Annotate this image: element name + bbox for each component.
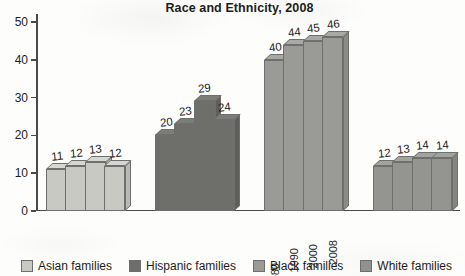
bar-face <box>264 60 285 211</box>
y-axis-tick-label: 20 <box>15 128 28 142</box>
legend-item[interactable]: Hispanic families <box>129 259 236 273</box>
y-axis-tick <box>31 135 36 137</box>
bar-face <box>373 166 394 211</box>
bar-group: 121980131990142000142008 <box>373 14 458 211</box>
legend-swatch <box>360 260 372 272</box>
bar-face <box>104 166 125 211</box>
bar-value-label: 13 <box>89 142 103 155</box>
chart-legend: Asian familiesHispanic familiesBlack fam… <box>0 259 465 273</box>
bar-face <box>65 166 86 211</box>
bar[interactable]: 111980 <box>46 169 67 211</box>
bar[interactable]: 401980 <box>264 60 285 211</box>
bar-value-label: 44 <box>287 25 301 38</box>
plot-area: 01020304050 1119801219901320001220082019… <box>36 14 460 211</box>
y-axis-tick-label: 50 <box>15 15 28 29</box>
bar[interactable]: 292000 <box>194 101 215 211</box>
legend-item[interactable]: White families <box>360 259 452 273</box>
legend-label: Black families <box>270 259 343 273</box>
bar-value-label: 46 <box>326 18 340 31</box>
chart-title: Race and Ethnicity, 2008 <box>0 1 465 15</box>
bar-side-face <box>234 115 240 211</box>
bar[interactable]: 231990 <box>174 124 195 211</box>
legend-swatch <box>253 260 265 272</box>
bar[interactable]: 242008 <box>213 120 234 211</box>
bar[interactable]: 142008 <box>431 158 452 211</box>
bar-face <box>412 158 433 211</box>
bar-side-face <box>343 32 349 211</box>
y-axis-tick <box>31 172 36 174</box>
bar-group: 201980231990292000242008 <box>155 14 240 211</box>
legend-swatch <box>129 260 141 272</box>
bar-face <box>213 120 234 211</box>
legend-swatch <box>21 260 33 272</box>
y-axis-tick-label: 10 <box>15 166 28 180</box>
legend-label: Asian families <box>38 259 112 273</box>
bar-face <box>85 162 106 211</box>
legend-item[interactable]: Black families <box>253 259 343 273</box>
legend-label: Hispanic families <box>146 259 236 273</box>
bar-value-label: 13 <box>396 142 410 155</box>
bar-value-label: 14 <box>416 138 430 151</box>
bar[interactable]: 452000 <box>303 41 324 211</box>
bar-value-label: 40 <box>268 40 282 53</box>
bar[interactable]: 121980 <box>373 166 394 211</box>
y-axis-tick-label: 0 <box>21 204 28 218</box>
bar[interactable]: 122008 <box>104 166 125 211</box>
bar-value-label: 11 <box>50 150 63 163</box>
bar-value-label: 45 <box>307 21 321 34</box>
bar-face <box>322 37 343 211</box>
bar-face <box>194 101 215 211</box>
bar[interactable]: 201980 <box>155 135 176 211</box>
bar-face <box>155 135 176 211</box>
bar[interactable]: 132000 <box>85 162 106 211</box>
bar-value-label: 24 <box>217 101 231 114</box>
y-axis-tick <box>31 97 36 99</box>
bar-face <box>303 41 324 211</box>
y-axis-tick-label: 30 <box>15 91 28 105</box>
bar-face <box>46 169 67 211</box>
bar[interactable]: 121990 <box>65 166 86 211</box>
bar-value-label: 12 <box>108 146 122 159</box>
bar-value-label: 23 <box>178 104 192 117</box>
y-axis-line <box>36 14 38 211</box>
y-axis-tick <box>31 210 36 212</box>
y-axis-tick <box>31 21 36 23</box>
bar-side-face <box>452 153 458 211</box>
y-axis-tick-label: 40 <box>15 53 28 67</box>
y-axis-tick <box>31 59 36 61</box>
bar-group: 401980441990452000462008 <box>264 14 349 211</box>
bar-face <box>431 158 452 211</box>
bar[interactable]: 131990 <box>392 162 413 211</box>
bar[interactable]: 462008 <box>322 37 343 211</box>
bar-face <box>392 162 413 211</box>
bar[interactable]: 441990 <box>283 45 304 211</box>
bar-value-label: 29 <box>198 82 212 95</box>
bar-face <box>283 45 304 211</box>
bar[interactable]: 142000 <box>412 158 433 211</box>
bar-face <box>174 124 195 211</box>
bar-value-label: 12 <box>377 146 391 159</box>
bar-group: 111980121990132000122008 <box>46 14 131 211</box>
bar-value-label: 20 <box>159 116 173 129</box>
legend-item[interactable]: Asian families <box>21 259 112 273</box>
legend-label: White families <box>377 259 452 273</box>
bar-side-face <box>125 160 131 211</box>
bar-value-label: 14 <box>435 138 449 151</box>
bar-value-label: 12 <box>69 146 83 159</box>
